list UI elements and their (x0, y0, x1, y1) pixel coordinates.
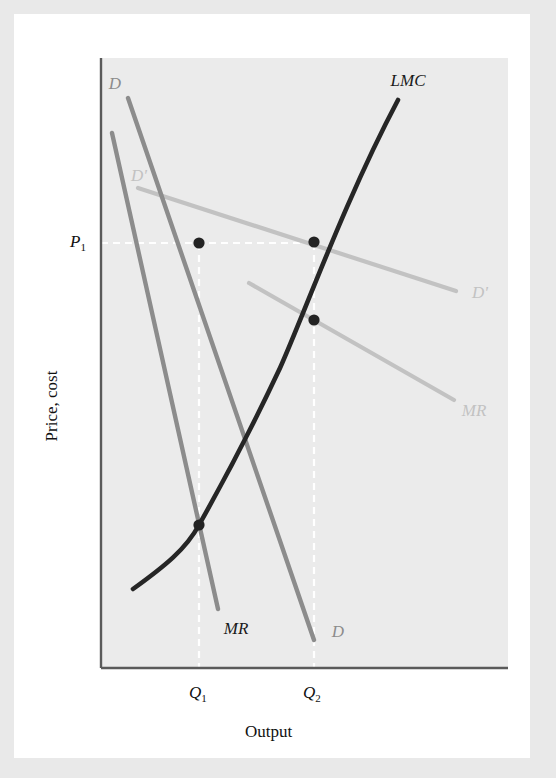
curve-label-d-prime: D' (471, 283, 488, 302)
curve-label-d-top: D (108, 74, 122, 93)
y-axis-title: Price, cost (42, 346, 62, 466)
tick-p1-sub: 1 (80, 241, 86, 253)
curve-label-mr: MR (223, 619, 249, 638)
diagram-canvas: D D MR D' D' MR LMC (0, 0, 556, 778)
curve-label-mr-prime: MR (461, 401, 487, 420)
marker-d-at-p1 (193, 237, 204, 248)
tick-q1-sub: 1 (201, 692, 207, 704)
marker-lmc-mrprime (308, 314, 319, 325)
marker-dprime-at-p1 (308, 236, 319, 247)
tick-label-q2: Q2 (303, 683, 321, 704)
tick-label-p1: P1 (70, 232, 86, 253)
tick-q2-sub: 2 (315, 692, 321, 704)
marker-lmc-mr (193, 519, 204, 530)
tick-q2-base: Q (303, 683, 315, 702)
curve-label-d-bottom: D (331, 622, 345, 641)
curve-label-d-prime-top: D' (130, 166, 147, 185)
figure-root: D D MR D' D' MR LMC P1 Q1 Q2 Price, cost… (0, 0, 556, 778)
x-axis-title: Output (245, 722, 292, 742)
tick-label-q1: Q1 (189, 683, 207, 704)
tick-p1-base: P (70, 232, 80, 251)
tick-q1-base: Q (189, 683, 201, 702)
curve-label-lmc: LMC (390, 71, 427, 90)
